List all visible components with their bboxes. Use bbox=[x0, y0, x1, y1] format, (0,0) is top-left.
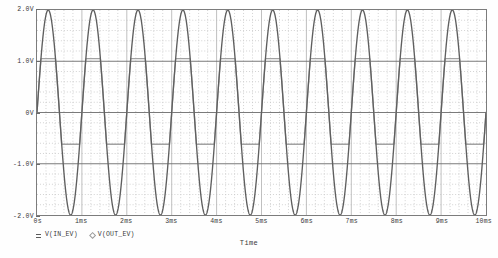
legend-label: V(IN_EV) bbox=[45, 231, 78, 238]
plot-area bbox=[36, 9, 487, 216]
y-axis-tick-label: -2.0V bbox=[0, 213, 34, 220]
legend-marker-icon bbox=[36, 232, 42, 238]
x-axis-tick-label: 8ms bbox=[391, 218, 403, 226]
x-axis-tick-label: 0s bbox=[34, 218, 42, 226]
legend-entry-1[interactable]: V(OUT_EV) bbox=[89, 231, 135, 238]
legend-label: V(OUT_EV) bbox=[98, 231, 135, 238]
x-axis-tick-label: 3ms bbox=[165, 218, 177, 226]
x-axis-tick-label: 5ms bbox=[255, 218, 267, 226]
x-axis-title: Time bbox=[0, 239, 498, 247]
x-axis-labels: 0s1ms2ms3ms4ms5ms6ms7ms8ms9ms10ms bbox=[36, 218, 487, 229]
y-axis-tick-label: 2.0V bbox=[0, 6, 34, 13]
x-axis-tick-label: 9ms bbox=[436, 218, 448, 226]
transient-plot-window: 2.0V1.0V0V-1.0V-2.0V 0s1ms2ms3ms4ms5ms6m… bbox=[0, 0, 498, 258]
y-axis-labels: 2.0V1.0V0V-1.0V-2.0V bbox=[0, 9, 34, 216]
x-axis-tick-label: 2ms bbox=[120, 218, 132, 226]
trace-V(IN_EV) bbox=[37, 10, 486, 215]
y-axis-tick-label: -1.0V bbox=[0, 161, 34, 168]
trace-V(OUT_EV) bbox=[37, 59, 486, 145]
x-axis-tick-label: 1ms bbox=[75, 218, 87, 226]
legend-entry-0[interactable]: V(IN_EV) bbox=[36, 231, 78, 238]
y-axis-tick-label: 1.0V bbox=[0, 57, 34, 64]
plot-legend: V(IN_EV)V(OUT_EV) bbox=[36, 231, 135, 238]
y-axis-tick-label: 0V bbox=[0, 109, 34, 116]
y-axis-tick-mark bbox=[36, 216, 40, 217]
x-axis-tick-label: 4ms bbox=[210, 218, 222, 226]
x-axis-tick-label: 10ms bbox=[476, 218, 492, 226]
legend-marker-icon bbox=[89, 232, 95, 238]
x-axis-tick-label: 7ms bbox=[346, 218, 358, 226]
x-axis-tick-label: 6ms bbox=[300, 218, 312, 226]
waveform-traces bbox=[37, 10, 486, 215]
